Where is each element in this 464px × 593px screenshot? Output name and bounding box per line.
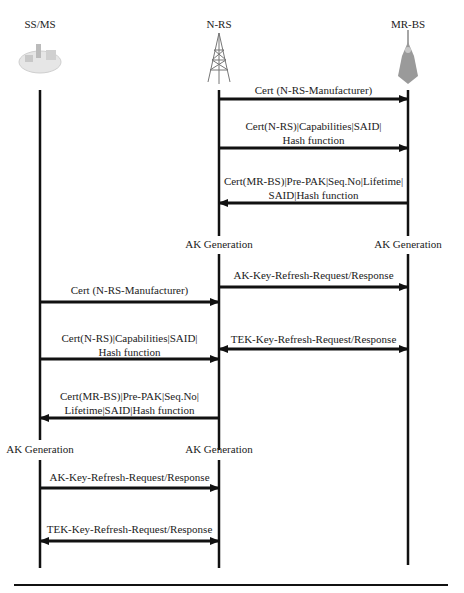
msg-label-3: Cert(MR-BS)|Pre-PAK|Seq.No|Lifetime|SAID… [219, 174, 408, 202]
participant-ssms-label: SS/MS [0, 18, 80, 30]
msg-label-10: TEK-Key-Refresh-Request/Response [40, 522, 219, 536]
participant-nrs-label: N-RS [179, 18, 259, 30]
computer-network-icon [19, 44, 61, 73]
msg-label-6: Cert(N-RS)|Capabilities|SAID|Hash functi… [40, 331, 219, 359]
base-station-tower-icon [398, 30, 418, 84]
msg-label-7: TEK-Key-Refresh-Request/Response [219, 332, 408, 346]
msg-label-4: AK-Key-Refresh-Request/Response [219, 268, 408, 282]
participant-mrbs-label: MR-BS [368, 18, 448, 30]
ak-generation-mrbs: AK Generation [363, 238, 453, 250]
msg-label-1: Cert (N-RS-Manufacturer) [219, 83, 408, 97]
msg-label-2: Cert(N-RS)|Capabilities|SAID|Hash functi… [219, 119, 408, 147]
msg-label-5: Cert (N-RS-Manufacturer) [40, 283, 219, 297]
msg-label-8: Cert(MR-BS)|Pre-PAK|Seq.No|Lifetime|SAID… [40, 389, 219, 417]
ak-generation-nrs-1: AK Generation [174, 238, 264, 250]
relay-tower-icon [208, 33, 230, 84]
ak-generation-ssms: AK Generation [0, 443, 85, 455]
ak-generation-nrs-2: AK Generation [174, 443, 264, 455]
msg-label-9: AK-Key-Refresh-Request/Response [40, 470, 219, 484]
